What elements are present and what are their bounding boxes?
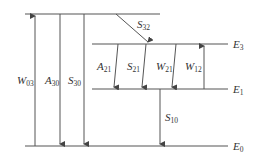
label-a21: A21 [96, 60, 111, 74]
arrow-s21 [142, 44, 146, 87]
label-w21: W21 [156, 60, 173, 74]
label-e3: E3 [232, 38, 244, 52]
label-s21: S21 [127, 60, 140, 74]
label-e0: E0 [232, 140, 244, 154]
label-a30: A30 [44, 74, 59, 88]
label-e1: E1 [232, 83, 244, 97]
label-s10: S10 [165, 111, 178, 125]
label-s32: S32 [137, 18, 150, 32]
energy-level-diagram: W03 A30 S30 S32 A21 S21 W21 W12 S10 E3 E… [0, 0, 256, 161]
label-w03: W03 [17, 74, 34, 88]
arrow-a21 [114, 44, 118, 87]
label-w12: W12 [185, 60, 202, 74]
label-s30: S30 [68, 74, 81, 88]
